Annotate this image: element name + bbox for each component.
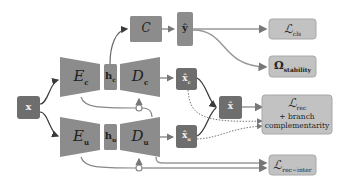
latent-hu-label: hu [103, 131, 118, 143]
architecture-diagram: x Ec hc Dc Eu hu Du C ŷ x̂c x̂u x̂ ℒcls … [0, 0, 347, 183]
xhat-label: x̂ [219, 102, 242, 111]
classifier-c-label: C [130, 22, 162, 34]
encoder-u-label: Eu [68, 129, 94, 146]
loss-rec-inter-label: ℒrec−inter [269, 159, 316, 173]
decoder-c-label: Dc [126, 69, 154, 86]
loss-stability-label: Ωstability [269, 60, 316, 73]
loss-cls-label: ℒcls [269, 23, 316, 37]
loss-rec-label: ℒrec [262, 97, 332, 111]
combine-circle-c [136, 105, 142, 111]
latent-hc-label: hc [103, 71, 118, 83]
xhat-c-label: x̂c [176, 74, 197, 85]
encoder-c-label: Ec [68, 69, 94, 86]
decoder-u-label: Du [126, 129, 154, 146]
loss-rec-line2: + branch [262, 113, 332, 121]
yhat-label: ŷ [177, 23, 193, 33]
xhat-u-label: x̂u [176, 131, 197, 142]
loss-rec-line3: complementarity [262, 122, 332, 130]
input-x-label: x [17, 102, 40, 112]
combine-circle-u [136, 165, 142, 171]
